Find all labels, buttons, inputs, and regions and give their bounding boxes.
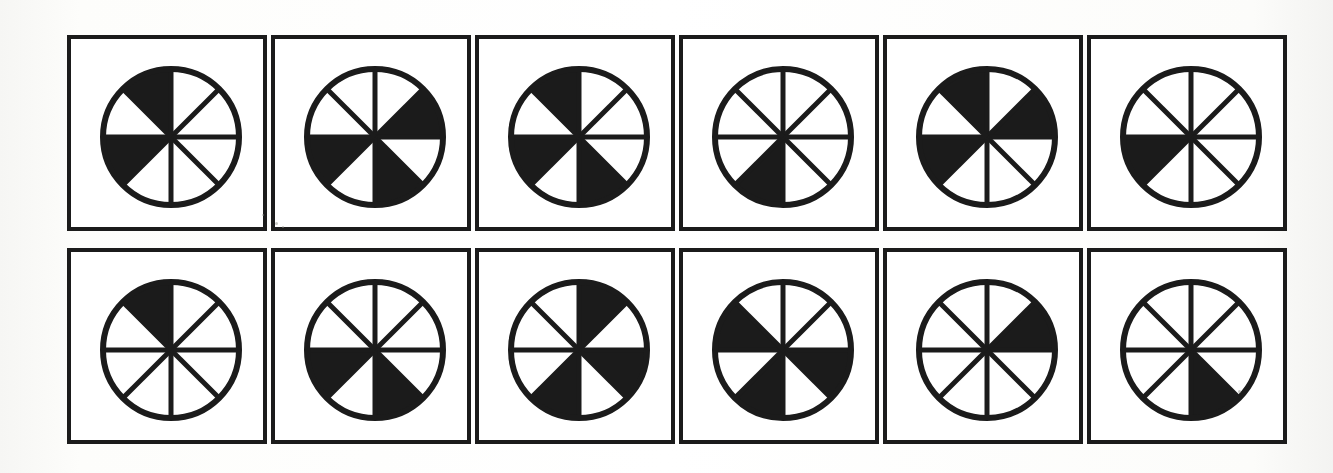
panel-7[interactable]: [67, 248, 267, 444]
sector-divider-7: [327, 302, 375, 350]
panel-8[interactable]: [271, 248, 471, 444]
sector-circle: [71, 39, 271, 235]
sector-divider-5: [939, 350, 987, 398]
panel-3[interactable]: [475, 35, 675, 231]
sector-divider-3: [783, 137, 831, 185]
sector-divider-1: [375, 302, 423, 350]
sector-circle: [887, 39, 1087, 235]
sector-divider-1: [579, 89, 627, 137]
sector-circle: [71, 252, 271, 448]
sector-circle: [479, 39, 679, 235]
sector-divider-7: [1143, 89, 1191, 137]
figure-page: [0, 0, 1333, 473]
sector-divider-7: [327, 89, 375, 137]
panel-9[interactable]: [475, 248, 675, 444]
sector-divider-3: [987, 137, 1035, 185]
panel-6[interactable]: [1087, 35, 1287, 231]
sector-divider-3: [171, 350, 219, 398]
sector-circle: [1091, 252, 1291, 448]
sector-divider-7: [735, 89, 783, 137]
panel-5[interactable]: [883, 35, 1083, 231]
sector-divider-1: [171, 302, 219, 350]
sector-circle: [275, 39, 475, 235]
sector-circle: [683, 252, 883, 448]
sector-divider-5: [123, 350, 171, 398]
sector-divider-7: [939, 302, 987, 350]
panel-10[interactable]: [679, 248, 879, 444]
sector-divider-1: [783, 302, 831, 350]
sector-divider-1: [783, 89, 831, 137]
sector-divider-3: [1191, 137, 1239, 185]
sector-divider-1: [171, 89, 219, 137]
sector-divider-1: [1191, 89, 1239, 137]
sector-divider-7: [531, 302, 579, 350]
sector-circle: [683, 39, 883, 235]
sector-circle: [1091, 39, 1291, 235]
panel-2[interactable]: [271, 35, 471, 231]
sector-circle: [479, 252, 679, 448]
panel-11[interactable]: [883, 248, 1083, 444]
sector-circle: [275, 252, 475, 448]
sector-divider-1: [1191, 302, 1239, 350]
sector-divider-3: [987, 350, 1035, 398]
sector-divider-3: [171, 137, 219, 185]
sector-divider-5: [1143, 350, 1191, 398]
panel-12[interactable]: [1087, 248, 1287, 444]
sector-divider-7: [1143, 302, 1191, 350]
panel-4[interactable]: [679, 35, 879, 231]
sector-circle: [887, 252, 1087, 448]
panel-1[interactable]: [67, 35, 267, 231]
